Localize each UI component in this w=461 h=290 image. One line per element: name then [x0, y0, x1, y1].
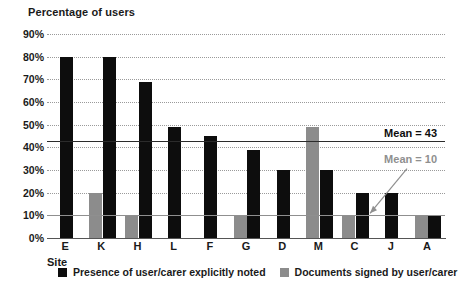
x-axis-line [47, 238, 446, 239]
chart-title: Percentage of users [28, 6, 135, 18]
x-axis-tick-label: M [300, 240, 336, 252]
x-axis-tick-label: G [228, 240, 264, 252]
x-axis-tick-label: E [47, 240, 83, 252]
y-axis-tick-label: 60% [4, 96, 44, 108]
x-axis-tick-label: D [264, 240, 300, 252]
legend-label: Presence of user/carer explicitly noted [73, 266, 266, 278]
y-axis-tick-label: 20% [4, 187, 44, 199]
legend-swatch-gray [280, 268, 289, 277]
legend-swatch-black [58, 268, 67, 277]
x-axis-tick-label: C [336, 240, 372, 252]
y-axis-tick-label: 90% [4, 28, 44, 40]
y-axis-tick-label: 40% [4, 141, 44, 153]
x-axis-tick-label: H [119, 240, 155, 252]
y-axis-tick-label: 0% [4, 232, 44, 244]
y-axis-tick-label: 80% [4, 51, 44, 63]
plot-area: Mean = 43Mean = 10 [47, 34, 445, 238]
y-axis-tick-label: 30% [4, 164, 44, 176]
y-axis-tick-label: 10% [4, 209, 44, 221]
x-axis-tick-label: A [409, 240, 445, 252]
legend: Presence of user/carer explicitly notedD… [58, 266, 457, 278]
x-axis-tick-label: J [373, 240, 409, 252]
mean-annotation-arrow [47, 34, 445, 238]
y-axis-tick-labels: 90%80%70%60%50%40%30%20%10%0% [0, 0, 44, 290]
legend-item: Documents signed by user/carer [280, 266, 458, 278]
x-axis-tick-label: L [156, 240, 192, 252]
bar-chart: Percentage of users 90%80%70%60%50%40%30… [0, 0, 461, 290]
y-axis-tick-label: 50% [4, 119, 44, 131]
legend-label: Documents signed by user/carer [295, 266, 458, 278]
y-axis-tick-label: 70% [4, 73, 44, 85]
x-axis-tick-labels: EKHLFGDMCJA [47, 240, 445, 258]
legend-item: Presence of user/carer explicitly noted [58, 266, 266, 278]
x-axis-tick-label: F [192, 240, 228, 252]
x-axis-tick-label: K [83, 240, 119, 252]
